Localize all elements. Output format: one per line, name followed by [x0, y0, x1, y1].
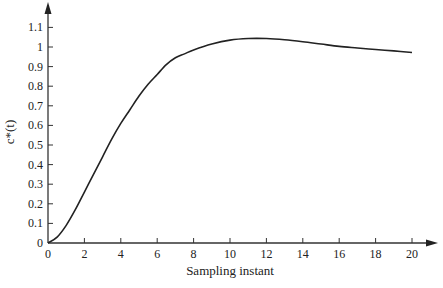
y-tick-label: 0.1 [28, 216, 43, 230]
x-axis-arrow-icon [426, 240, 438, 247]
x-tick-label: 10 [224, 247, 236, 261]
x-axis: 02468101214161820 [45, 238, 438, 261]
y-axis-title: c*(t) [2, 120, 17, 145]
x-tick-label: 4 [118, 247, 124, 261]
x-tick-label: 8 [191, 247, 197, 261]
x-tick-label: 14 [297, 247, 309, 261]
y-tick-label: 0.9 [28, 60, 43, 74]
y-tick-label: 0.5 [28, 138, 43, 152]
response-curve [48, 38, 412, 243]
y-tick-label: 0.7 [28, 99, 43, 113]
x-tick-label: 0 [45, 247, 51, 261]
x-tick-label: 20 [406, 247, 418, 261]
x-tick-label: 18 [370, 247, 382, 261]
x-tick-label: 12 [260, 247, 272, 261]
y-tick-label: 0.8 [28, 79, 43, 93]
y-axis: 00.10.20.30.40.50.60.70.80.911.1 [28, 2, 53, 250]
y-tick-label: 0.3 [28, 177, 43, 191]
y-axis-arrow-icon [45, 2, 52, 14]
y-tick-label: 0.6 [28, 118, 43, 132]
x-tick-label: 16 [333, 247, 345, 261]
y-tick-label: 0 [37, 236, 43, 250]
y-tick-label: 0.2 [28, 197, 43, 211]
line-chart: 00.10.20.30.40.50.60.70.80.911.1 0246810… [0, 0, 443, 288]
x-axis-title: Sampling instant [186, 263, 274, 278]
y-tick-label: 1 [37, 40, 43, 54]
y-tick-label: 0.4 [28, 158, 43, 172]
x-tick-label: 6 [154, 247, 160, 261]
x-tick-label: 2 [81, 247, 87, 261]
y-tick-label: 1.1 [28, 20, 43, 34]
